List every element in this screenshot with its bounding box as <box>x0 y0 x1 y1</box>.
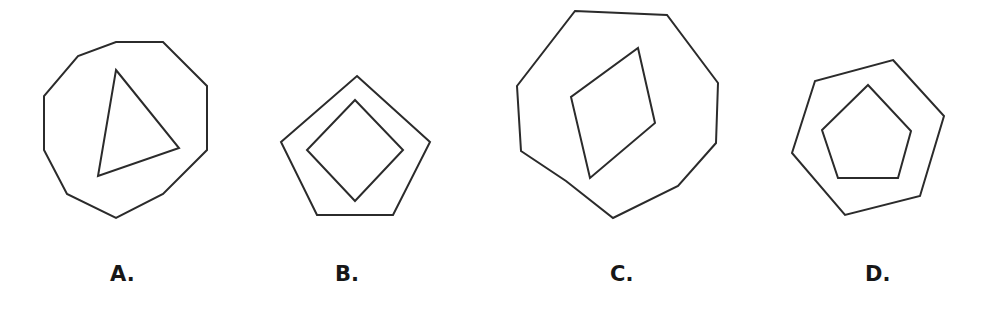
option-a-inner-triangle[interactable] <box>98 70 179 176</box>
option-b-shapes <box>281 76 430 215</box>
option-d-inner-pentagon[interactable] <box>822 85 911 178</box>
option-b-inner-diamond[interactable] <box>307 100 403 201</box>
option-d-shapes <box>792 60 944 215</box>
option-b-outer-pentagon[interactable] <box>281 76 430 215</box>
polygon-figure-canvas <box>0 0 986 317</box>
option-label-b[interactable]: B. <box>335 264 359 285</box>
option-a-outer-octagon[interactable] <box>44 42 207 218</box>
option-label-a[interactable]: A. <box>110 264 135 285</box>
option-c-inner-rhombus[interactable] <box>571 48 655 178</box>
option-label-d[interactable]: D. <box>865 264 890 285</box>
option-d-outer-hexagon[interactable] <box>792 60 944 215</box>
option-c-outer-octagon[interactable] <box>517 11 718 218</box>
option-a-shapes <box>44 42 207 218</box>
option-label-c[interactable]: C. <box>610 264 633 285</box>
question-figure-page: A. B. C. D. <box>0 0 986 317</box>
option-c-shapes <box>517 11 718 218</box>
